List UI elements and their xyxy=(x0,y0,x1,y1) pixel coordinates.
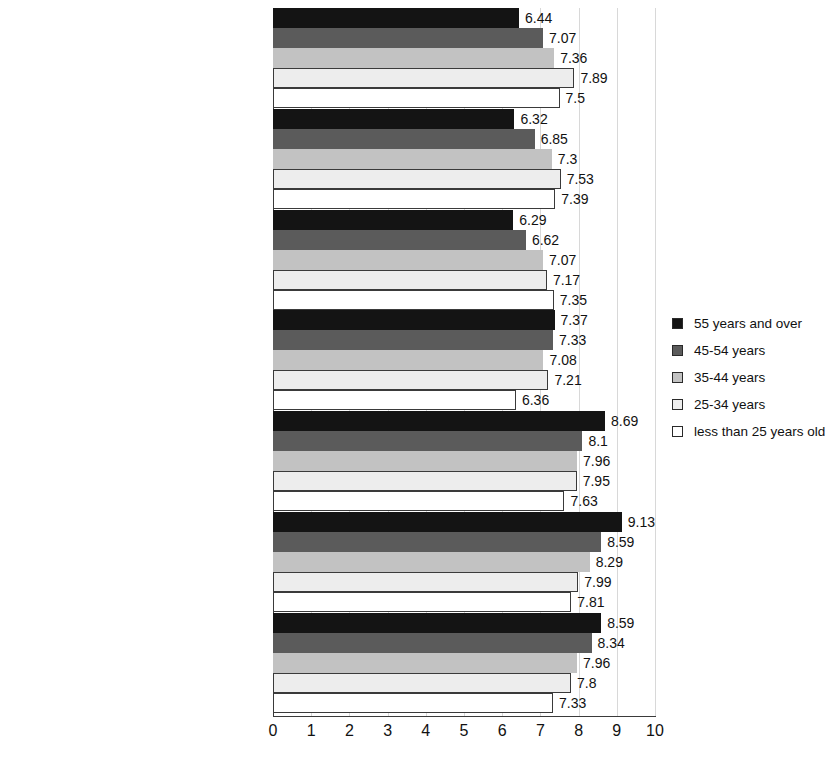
gridline-10 xyxy=(655,8,656,716)
bar-value-label: 6.85 xyxy=(541,131,568,147)
bar xyxy=(273,210,513,230)
bar xyxy=(273,552,590,572)
legend-item[interactable]: less than 25 years old xyxy=(672,418,836,445)
x-tick-label: 1 xyxy=(307,722,316,740)
bar-group: Part-time work6.296.627.077.177.35 xyxy=(273,210,655,310)
bar-row: 6.36 xyxy=(273,390,655,410)
bar xyxy=(273,693,553,713)
bar xyxy=(273,48,554,68)
bar-row: 8.59 xyxy=(273,613,655,633)
legend-swatch-icon xyxy=(672,345,683,356)
legend-item[interactable]: 45-54 years xyxy=(672,337,836,364)
bar-value-label: 6.44 xyxy=(525,10,552,26)
bar xyxy=(273,532,601,552)
bar xyxy=(273,411,605,431)
bar xyxy=(273,512,622,532)
bar-value-label: 7.8 xyxy=(577,675,596,691)
bar-value-label: 7.96 xyxy=(583,453,610,469)
bar-value-label: 7.07 xyxy=(549,30,576,46)
bar-row: 6.32 xyxy=(273,109,655,129)
bar-group: Changing the workplace6.326.857.37.537.3… xyxy=(273,109,655,209)
bar-row: 7.63 xyxy=(273,491,655,511)
bar-value-label: 7.33 xyxy=(559,332,586,348)
x-tick-label: 10 xyxy=(646,722,664,740)
bar-row: 8.69 xyxy=(273,411,655,431)
x-tick-label: 5 xyxy=(460,722,469,740)
bar xyxy=(273,28,543,48)
bar xyxy=(273,491,564,511)
bar-group: Health promotion8.598.347.967.87.33 xyxy=(273,613,655,713)
bar-row: 6.29 xyxy=(273,210,655,230)
bar-row: 7.07 xyxy=(273,250,655,270)
chart-legend: 55 years and over45-54 years35-44 years2… xyxy=(672,310,836,445)
legend-item[interactable]: 25-34 years xyxy=(672,391,836,418)
bar-group: New qualifications6.447.077.367.897.5 xyxy=(273,8,655,108)
bar-value-label: 6.36 xyxy=(522,392,549,408)
legend-swatch-icon xyxy=(672,399,683,410)
bar xyxy=(273,572,578,592)
bar-row: 7.33 xyxy=(273,330,655,350)
bar-row: 8.29 xyxy=(273,552,655,572)
bar-value-label: 6.29 xyxy=(519,212,546,228)
bar-row: 9.13 xyxy=(273,512,655,532)
bar xyxy=(273,390,516,410)
bar-row: 6.44 xyxy=(273,8,655,28)
legend-label: 25-34 years xyxy=(694,397,765,412)
bar-row: 6.62 xyxy=(273,230,655,250)
bar-row: 8.1 xyxy=(273,431,655,451)
bar-value-label: 7.37 xyxy=(561,312,588,328)
bar-group: Ensuring safety and health protection8.6… xyxy=(273,411,655,511)
bar-value-label: 7.96 xyxy=(583,655,610,671)
bar xyxy=(273,613,601,633)
bar-row: 7.39 xyxy=(273,189,655,209)
bar-value-label: 7.39 xyxy=(561,191,588,207)
bar-value-label: 8.29 xyxy=(596,554,623,570)
legend-label: 45-54 years xyxy=(694,343,765,358)
grouped-bar-chart: New qualifications6.447.077.367.897.5Cha… xyxy=(0,0,836,761)
legend-label: 35-44 years xyxy=(694,370,765,385)
legend-item[interactable]: 55 years and over xyxy=(672,310,836,337)
x-axis-tick-labels: 012345678910 xyxy=(273,722,655,748)
bar xyxy=(273,169,561,189)
x-tick-label: 6 xyxy=(498,722,507,740)
bar-value-label: 7.81 xyxy=(577,594,604,610)
bar-row: 7.35 xyxy=(273,290,655,310)
bar xyxy=(273,129,535,149)
bar-value-label: 8.59 xyxy=(607,534,634,550)
bar-row: 7.5 xyxy=(273,88,655,108)
bar-value-label: 7.95 xyxy=(583,473,610,489)
bar-value-label: 7.53 xyxy=(567,171,594,187)
bar-row: 7.53 xyxy=(273,169,655,189)
bar xyxy=(273,250,543,270)
bar-value-label: 9.13 xyxy=(628,514,655,530)
bar-row: 8.59 xyxy=(273,532,655,552)
bar-value-label: 7.17 xyxy=(553,272,580,288)
bar-value-label: 7.99 xyxy=(584,574,611,590)
bar-row: 7.37 xyxy=(273,310,655,330)
bar xyxy=(273,230,526,250)
bar xyxy=(273,370,548,390)
bar-value-label: 6.62 xyxy=(532,232,559,248)
bar-row: 7.96 xyxy=(273,451,655,471)
bar-group: Periodic medical examinations9.138.598.2… xyxy=(273,512,655,612)
bar-value-label: 7.3 xyxy=(558,151,577,167)
bar xyxy=(273,431,582,451)
legend-item[interactable]: 35-44 years xyxy=(672,364,836,391)
bar-value-label: 7.5 xyxy=(566,90,585,106)
x-axis-line xyxy=(273,716,656,717)
bar xyxy=(273,673,571,693)
bar-value-label: 7.63 xyxy=(570,493,597,509)
bar xyxy=(273,633,592,653)
bar-value-label: 7.07 xyxy=(549,252,576,268)
bar-row: 7.99 xyxy=(273,572,655,592)
bar-value-label: 7.21 xyxy=(554,372,581,388)
bar-row: 7.33 xyxy=(273,693,655,713)
bar xyxy=(273,653,577,673)
bar xyxy=(273,330,553,350)
bar-row: 7.3 xyxy=(273,149,655,169)
plot-area: New qualifications6.447.077.367.897.5Cha… xyxy=(273,8,655,716)
bar-row: 7.96 xyxy=(273,653,655,673)
bar xyxy=(273,8,519,28)
bar-value-label: 7.08 xyxy=(549,352,576,368)
bar-row: 7.07 xyxy=(273,28,655,48)
